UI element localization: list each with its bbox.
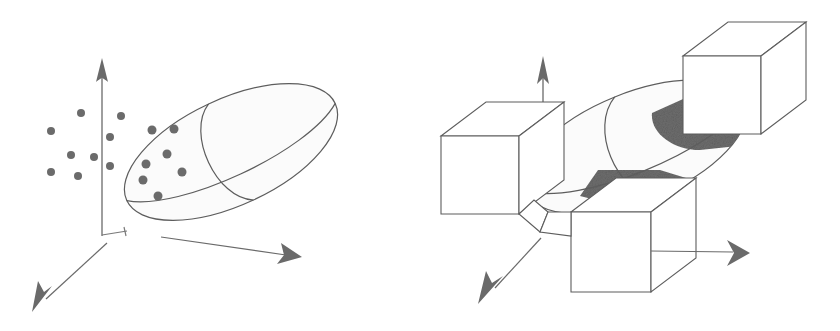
data-point	[170, 125, 179, 134]
ellipsoid-cubes-panel	[441, 22, 806, 304]
axis-arrow-horizontal-head	[727, 240, 750, 266]
cube-lower-center-front	[571, 212, 651, 292]
axis-arrow-horizontal-head	[277, 243, 302, 264]
data-point	[47, 168, 55, 176]
data-point	[77, 109, 85, 117]
data-point	[178, 168, 187, 177]
data-point	[47, 127, 55, 135]
data-point	[117, 112, 125, 120]
data-point	[106, 162, 114, 170]
data-point	[106, 133, 114, 141]
data-point	[90, 153, 98, 161]
axis-arrow-horizontal	[161, 237, 286, 255]
axis-arrow-depth	[495, 238, 541, 288]
data-point	[154, 192, 163, 201]
cube-upper-right-front	[683, 56, 761, 134]
scatter-ellipsoid-panel	[32, 55, 358, 312]
origin-tick	[102, 231, 127, 235]
figure-root: Data points with fitted ellipsoid Ellips…	[0, 0, 840, 331]
axis-arrow-depth	[46, 243, 107, 299]
data-point	[67, 151, 75, 159]
data-point	[148, 126, 157, 135]
cube-left-front	[441, 136, 519, 214]
cube-upper-right	[683, 22, 806, 134]
data-point	[139, 176, 148, 185]
ellipsoid-left-outline	[104, 55, 357, 248]
ellipsoid-left	[104, 55, 357, 248]
data-point	[163, 150, 172, 159]
axis-arrow-depth-head	[478, 271, 503, 304]
figure-svg	[0, 0, 840, 331]
data-point	[74, 172, 82, 180]
data-point	[142, 160, 151, 169]
